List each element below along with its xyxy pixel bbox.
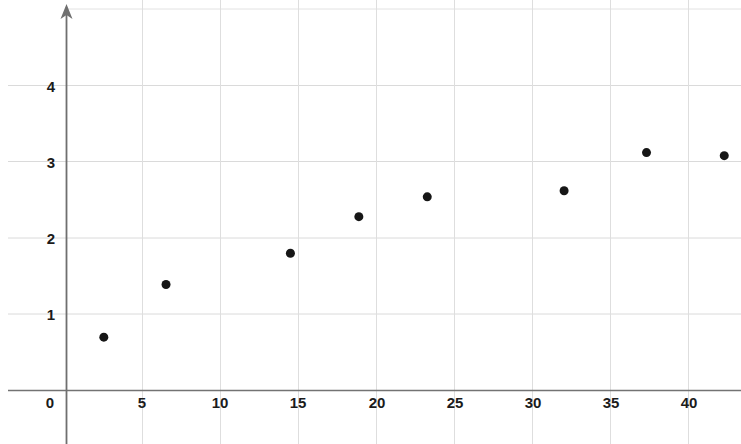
horizontal-gridlines xyxy=(8,9,741,314)
y-tick-label-3: 3 xyxy=(47,155,55,170)
data-point-series xyxy=(99,148,728,342)
data-point xyxy=(99,333,108,342)
data-point xyxy=(354,212,363,221)
plot-canvas xyxy=(0,0,741,444)
x-tick-label-25: 25 xyxy=(447,395,464,410)
data-point xyxy=(560,186,569,195)
y-tick-label-4: 4 xyxy=(47,79,55,94)
y-tick-label-1: 1 xyxy=(47,307,55,322)
x-tick-label-35: 35 xyxy=(603,395,620,410)
data-point xyxy=(642,148,651,157)
y-tick-label-2: 2 xyxy=(47,231,55,246)
x-tick-label-5: 5 xyxy=(138,395,146,410)
x-tick-label-40: 40 xyxy=(681,395,698,410)
x-tick-label-0: 0 xyxy=(46,395,54,410)
x-tick-label-10: 10 xyxy=(212,395,229,410)
data-point xyxy=(720,151,729,160)
vertical-gridlines xyxy=(143,0,689,444)
x-tick-label-30: 30 xyxy=(525,395,542,410)
x-tick-label-20: 20 xyxy=(369,395,386,410)
x-tick-label-15: 15 xyxy=(290,395,307,410)
scatter-plot-figure: 0 5 10 15 20 25 30 35 40 1 2 3 4 xyxy=(0,0,741,444)
data-point xyxy=(286,249,295,258)
data-point xyxy=(423,192,432,201)
data-point xyxy=(162,280,171,289)
